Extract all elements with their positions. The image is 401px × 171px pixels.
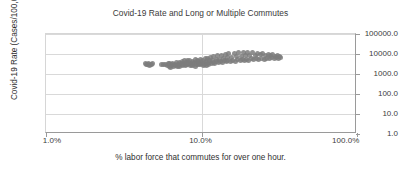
y-axis-tick-labels: 1.010.0100.01000.010000.0100000.0: [356, 33, 401, 133]
x-axis-tick-label: 1.0%: [43, 136, 61, 145]
x-axis-tick-label: 100.0%: [332, 136, 359, 145]
y-axis-tick-label: 100000.0: [356, 33, 401, 42]
y-axis-title: Covid-19 Rate (Cases/100,000): [10, 0, 19, 103]
y-axis-tick-label: 100.0: [356, 93, 401, 102]
chart-title: Covid-19 Rate and Long or Multiple Commu…: [0, 8, 401, 18]
chart-container: Covid-19 Rate and Long or Multiple Commu…: [0, 0, 401, 171]
y-axis-tick-label-text: 1000.0: [356, 69, 401, 78]
y-axis-tick-label: 10000.0: [356, 53, 401, 62]
y-axis-tick-label-text: 100.0: [356, 89, 401, 98]
scatter-series-counties: [46, 34, 355, 132]
y-axis-tick-label-text: 10000.0: [356, 49, 401, 58]
x-axis-tick-label: 10.0%: [189, 136, 212, 145]
x-axis-title: % labor force that commutes for over one…: [45, 153, 356, 162]
y-axis-tick-label: 10.0: [356, 113, 401, 122]
plot-area: [45, 33, 356, 133]
y-axis-tick-label: 1000.0: [356, 73, 401, 82]
scatter-point: [278, 55, 283, 60]
x-axis-tick-labels: 1.0%10.0%100.0%: [0, 136, 401, 150]
y-axis-tick-label-text: 10.0: [356, 109, 401, 118]
y-axis-tick-label-text: 100000.0: [356, 29, 401, 38]
scatter-point: [150, 61, 155, 66]
